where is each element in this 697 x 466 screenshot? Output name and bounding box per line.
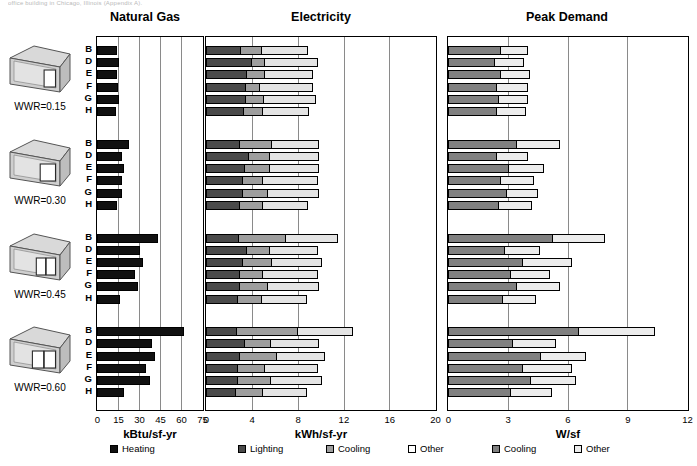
bar-h: [448, 107, 526, 116]
bar-segment-other: [508, 164, 544, 173]
bar-b: [97, 234, 158, 243]
legend-label: Heating: [122, 443, 155, 454]
bar-g: [448, 95, 528, 104]
bar-f: [206, 83, 313, 92]
building-icon-column: WWR=0.15 WWR=0.30 WWR=0.45 WWR=0.60: [0, 36, 78, 411]
bar-segment-other: [262, 107, 309, 116]
bar-segment-other: [502, 295, 536, 304]
bar-segment-lighting: [206, 70, 246, 79]
x-tick-label: 12: [332, 414, 356, 425]
bar-e: [206, 352, 325, 361]
bar-segment-cooling: [242, 176, 263, 185]
row-label-h: H: [85, 386, 92, 396]
bar-segment-cooling: [239, 140, 271, 149]
bar-segment-cooling: [242, 189, 267, 198]
bar-f: [448, 364, 572, 373]
bar-d: [448, 339, 556, 348]
legend-row: HeatingLightingCoolingOtherCoolingOther: [0, 443, 691, 461]
bar-e: [448, 258, 572, 267]
bar-segment-heating: [97, 164, 124, 173]
bar-e: [206, 258, 322, 267]
bar-segment-lighting: [206, 258, 242, 267]
bar-segment-heating: [97, 83, 118, 92]
bar-d: [97, 339, 152, 348]
building-icon-cell: WWR=0.30: [2, 134, 78, 224]
bar-h: [206, 201, 308, 210]
bar-g: [448, 376, 576, 385]
x-axis-title-elec: kWh/sf-yr: [205, 428, 437, 440]
bar-h: [97, 388, 124, 397]
bar-segment-cooling: [448, 70, 500, 79]
bar-segment-other: [494, 58, 524, 67]
bar-segment-lighting: [206, 270, 239, 279]
row-label-d: D: [85, 337, 92, 347]
bar-segment-other: [264, 70, 312, 79]
bar-segment-other: [510, 270, 550, 279]
bar-segment-cooling: [448, 295, 502, 304]
bar-segment-other: [522, 364, 572, 373]
building-massing-icon: [4, 40, 76, 100]
bar-segment-other: [271, 140, 319, 149]
bar-segment-cooling: [448, 258, 522, 267]
bar-segment-cooling: [448, 140, 516, 149]
bar-segment-other: [512, 339, 556, 348]
bar-segment-cooling: [448, 352, 540, 361]
bar-segment-other: [578, 327, 656, 336]
bar-segment-cooling: [448, 107, 496, 116]
bar-segment-other: [498, 201, 532, 210]
bar-b: [448, 46, 528, 55]
bar-segment-other: [259, 83, 313, 92]
bar-segment-other: [496, 83, 528, 92]
bar-segment-other: [262, 270, 318, 279]
bar-segment-cooling: [240, 46, 261, 55]
bar-segment-cooling: [448, 46, 500, 55]
bar-g: [97, 282, 138, 291]
bar-b: [448, 234, 605, 243]
bar-segment-cooling: [448, 152, 496, 161]
bar-g: [97, 95, 119, 104]
bar-segment-other: [500, 176, 534, 185]
building-massing-icon: [4, 134, 76, 194]
bar-e: [97, 164, 124, 173]
bar-segment-lighting: [206, 234, 238, 243]
wwr-label: WWR=0.15: [2, 101, 78, 112]
chart-title-electricity: Electricity: [203, 10, 439, 24]
bar-g: [206, 282, 319, 291]
bar-segment-cooling: [448, 388, 510, 397]
bar-segment-other: [510, 388, 552, 397]
bar-f: [206, 364, 318, 373]
bar-h: [97, 107, 116, 116]
row-label-b: B: [85, 325, 92, 335]
bar-segment-cooling: [448, 364, 522, 373]
legend-item-cooling: Cooling: [326, 443, 370, 454]
bar-segment-lighting: [206, 152, 248, 161]
bar-segment-other: [261, 46, 308, 55]
bar-segment-cooling: [448, 339, 512, 348]
bar-segment-heating: [97, 388, 124, 397]
bar-segment-cooling: [246, 70, 264, 79]
x-axis-title-gas: kBtu/sf-yr: [96, 428, 204, 440]
bar-g: [97, 189, 122, 198]
gridline: [389, 37, 390, 410]
bar-segment-other: [263, 95, 316, 104]
bar-segment-cooling: [448, 201, 498, 210]
bar-segment-lighting: [206, 83, 245, 92]
bar-h: [206, 295, 307, 304]
bar-segment-cooling: [448, 176, 500, 185]
bar-segment-other: [269, 246, 318, 255]
bar-segment-other: [264, 58, 318, 67]
bar-segment-cooling: [448, 95, 498, 104]
bar-segment-cooling: [237, 364, 265, 373]
bar-d: [206, 246, 318, 255]
bar-segment-cooling: [239, 270, 262, 279]
bar-segment-other: [516, 140, 560, 149]
bar-segment-cooling: [236, 327, 297, 336]
bar-g: [448, 282, 560, 291]
legend-item-other: Other: [408, 443, 444, 454]
bar-segment-cooling: [245, 83, 259, 92]
legend-swatch-lighting: [238, 445, 246, 453]
row-label-group: BDEFGH: [78, 36, 92, 411]
bar-f: [97, 176, 122, 185]
bar-segment-other: [262, 201, 308, 210]
bar-segment-other: [271, 258, 321, 267]
